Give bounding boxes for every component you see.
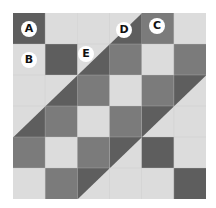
grid-cell (13, 168, 46, 199)
grid-cell (13, 75, 46, 107)
grid-cell (142, 137, 175, 169)
label-d: D (116, 22, 132, 38)
label-b: B (21, 52, 37, 68)
grid-cell (45, 168, 78, 199)
grid-cell (77, 106, 110, 138)
grid-cell (13, 137, 46, 169)
label-e: E (78, 46, 94, 62)
grid-cell (142, 75, 175, 107)
grid-cell (110, 106, 143, 138)
grid-cell (142, 106, 175, 138)
grid-cell (110, 75, 143, 107)
grid-cell (45, 13, 78, 45)
grid-cell (110, 44, 143, 76)
label-c: C (149, 18, 165, 34)
label-a: A (21, 21, 37, 37)
grid-cell (174, 75, 206, 107)
grid-cell (174, 13, 206, 45)
grid-cell (142, 44, 175, 76)
grid-cell (174, 44, 206, 76)
grid-cell (45, 137, 78, 169)
grid-cell (13, 106, 46, 138)
grid-cell (45, 44, 78, 76)
grid-cell (174, 137, 206, 169)
grid-svg (13, 13, 206, 199)
quilt-grid (13, 13, 206, 199)
grid-cell (45, 106, 78, 138)
grid-cell (174, 168, 206, 199)
grid-cell (77, 75, 110, 107)
grid-cell (77, 13, 110, 45)
grid-cell (45, 75, 78, 107)
grid-cell (110, 168, 143, 199)
grid-cell (77, 137, 110, 169)
grid-cell (77, 168, 110, 199)
grid-cell (174, 106, 206, 138)
grid-cell (110, 137, 143, 169)
grid-cell (142, 168, 175, 199)
